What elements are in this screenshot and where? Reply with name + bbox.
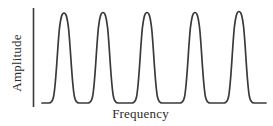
y-axis-label: Amplitude <box>2 0 32 126</box>
x-axis-label: Frequency <box>33 106 248 122</box>
waveform-figure: Amplitude Frequency <box>0 0 273 126</box>
